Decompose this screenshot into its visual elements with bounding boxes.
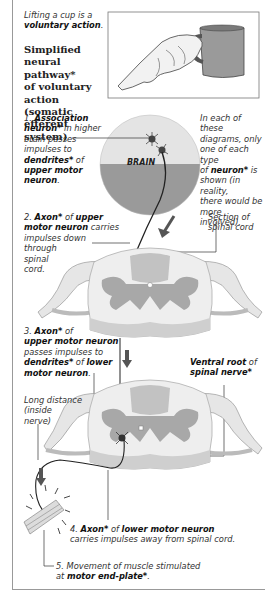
- text: nerve): [24, 416, 51, 426]
- text: Section of: [208, 212, 249, 222]
- text: in higher: [61, 123, 100, 133]
- term: Axon*: [35, 326, 63, 336]
- note-line: is: [248, 165, 257, 175]
- text: of: [73, 357, 86, 367]
- text: impulses to: [24, 144, 72, 154]
- term: Ventral root: [190, 357, 246, 367]
- term: upper: [76, 212, 104, 222]
- term: Axon*: [81, 524, 109, 534]
- term: lower motor neuron: [122, 524, 215, 534]
- spinal-cord-section-label: Section of spinal cord: [208, 212, 254, 233]
- text: carries impulses away from spinal cord.: [70, 534, 235, 544]
- step-2-caption: 2. Axon* of upper motor neuron carries i…: [24, 212, 119, 274]
- text: at: [56, 571, 67, 581]
- note-line: In each of these: [200, 113, 241, 133]
- ventral-root-label: Ventral root of spinal nerve*: [190, 357, 257, 378]
- neuron-term: neuron*: [211, 165, 248, 175]
- note-line: diagrams, only: [200, 134, 262, 144]
- step-4-caption: 4. Axon* of lower motor neuron carries i…: [70, 524, 235, 545]
- brain-label: BRAIN: [127, 158, 155, 168]
- text: spinal cord: [208, 222, 254, 232]
- muscle-fibres-illustration: [24, 485, 70, 534]
- text: of: [62, 212, 75, 222]
- text: cord.: [24, 264, 45, 274]
- long-distance-label: Long distance (inside nerve): [24, 395, 82, 426]
- term: motor neuron: [24, 222, 88, 232]
- text: of: [62, 326, 73, 336]
- text: spinal: [24, 254, 49, 264]
- term: lower: [87, 357, 113, 367]
- text: 5. Movement of muscle stimulated: [56, 561, 200, 571]
- text: Long distance: [24, 395, 82, 405]
- text: .: [147, 571, 150, 581]
- term: motor end-plate*: [67, 571, 147, 581]
- down-arrow-icon: [158, 216, 174, 238]
- term: upper motor neuron: [24, 336, 119, 346]
- hand-cup-illustration: [108, 12, 259, 98]
- step-3-caption: 3. Axon* of upper motor neuron passes im…: [24, 326, 119, 378]
- down-arrow-icon: [122, 350, 132, 368]
- term: spinal nerve*: [190, 367, 252, 377]
- term: Association: [35, 113, 89, 123]
- diagram-note: In each of these diagrams, only one of e…: [200, 113, 265, 227]
- text: of: [246, 357, 257, 367]
- text: carries: [88, 222, 119, 232]
- text: .: [88, 368, 91, 378]
- text: of: [108, 524, 121, 534]
- term: motor neuron: [24, 368, 88, 378]
- text: passes impulses to: [24, 347, 103, 357]
- term: upper motor: [24, 165, 83, 175]
- term: neuron*: [24, 123, 61, 133]
- text: impulses down: [24, 233, 86, 243]
- neural-pathway-illustration: [0, 0, 265, 598]
- note-line: there would be: [200, 196, 262, 206]
- down-arrow-icon: [36, 468, 46, 486]
- step-number: 1.: [24, 113, 35, 123]
- term: neuron: [24, 175, 57, 185]
- note-line: of: [200, 165, 211, 175]
- term: dendrites*: [24, 155, 73, 165]
- step-number: 2.: [24, 212, 35, 222]
- step-number: 4.: [70, 524, 81, 534]
- step-number: 3.: [24, 326, 35, 336]
- step-1-caption: 1. Association neuron* in higher brain p…: [24, 113, 101, 186]
- text: of: [73, 155, 84, 165]
- text: (inside: [24, 405, 52, 415]
- term: Axon*: [35, 212, 63, 222]
- note-line: one of each type: [200, 144, 249, 164]
- step-5-caption: 5. Movement of muscle stimulated at moto…: [56, 561, 200, 582]
- text: .: [57, 175, 60, 185]
- text: through: [24, 243, 57, 253]
- term: dendrites*: [24, 357, 73, 367]
- text: brain passes: [24, 134, 76, 144]
- note-line: shown (in reality,: [200, 175, 240, 195]
